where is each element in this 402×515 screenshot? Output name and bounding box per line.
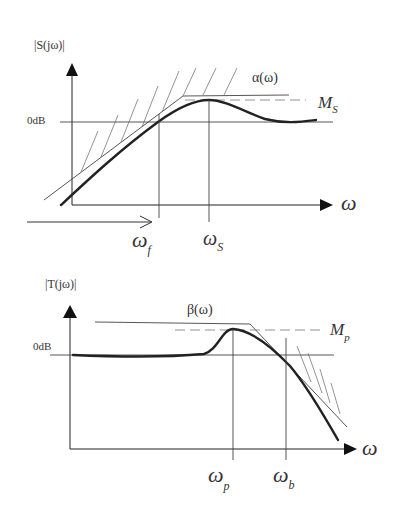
t-x-axis-arrow-icon xyxy=(344,443,357,455)
omega-p-label: ωp xyxy=(208,462,230,493)
t-y-axis-arrow-icon xyxy=(63,305,77,318)
s-y-axis-label: |S(jω)| xyxy=(34,38,65,52)
complementary-sensitivity-plot: |T(jω)| ω 0dB β(ω) Mp ωp xyxy=(33,277,378,493)
beta-label: β(ω) xyxy=(187,302,213,318)
omega-f-label: ωf xyxy=(132,227,153,257)
omega-b-label: ωb xyxy=(273,462,295,492)
complementary-sensitivity-curve xyxy=(73,329,338,440)
alpha-label: α(ω) xyxy=(252,70,278,86)
s-zero-db-label: 0dB xyxy=(27,114,45,126)
diagram-canvas: |S(jω)| ω 0dB α(ω) MS xyxy=(0,0,402,515)
sensitivity-curve xyxy=(61,100,316,205)
t-y-axis-label: |T(jω)| xyxy=(45,277,76,291)
omega-s-label: ωS xyxy=(203,227,223,254)
beta-hatching xyxy=(297,346,340,414)
sensitivity-plot: |S(jω)| ω 0dB α(ω) MS xyxy=(27,38,357,257)
s-y-axis-arrow-icon xyxy=(66,63,78,76)
alpha-bound-line xyxy=(44,95,289,200)
t-x-axis-label: ω xyxy=(362,435,378,460)
t-zero-db-label: 0dB xyxy=(33,340,51,352)
s-x-axis-label: ω xyxy=(341,190,357,215)
s-x-axis-arrow-icon xyxy=(320,199,333,211)
ms-label: MS xyxy=(317,93,338,115)
mp-label: Mp xyxy=(329,320,350,343)
